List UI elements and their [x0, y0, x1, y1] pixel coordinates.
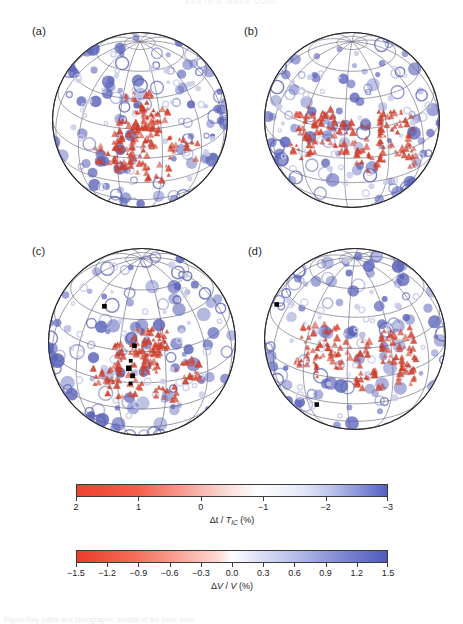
source-marker	[295, 144, 298, 147]
station-marker	[199, 288, 210, 299]
station-marker	[151, 81, 164, 94]
station-marker	[168, 261, 175, 268]
station-marker	[206, 298, 217, 309]
globe-d	[264, 248, 446, 430]
reference-marker	[132, 343, 137, 348]
source-marker	[165, 164, 168, 167]
station-marker	[421, 346, 425, 350]
station-marker	[362, 69, 368, 75]
station-marker	[176, 379, 183, 386]
panel-c: (c)	[30, 240, 230, 462]
station-marker	[287, 176, 297, 186]
source-marker	[156, 161, 162, 167]
station-marker	[190, 81, 195, 86]
station-marker	[337, 76, 341, 80]
station-marker	[162, 138, 168, 144]
station-marker	[410, 119, 416, 125]
station-marker	[87, 319, 97, 329]
station-marker	[346, 172, 353, 179]
station-marker	[290, 54, 300, 64]
colorbar-dt-tic-title: Δt / TIC (%)	[76, 515, 388, 528]
source-marker	[312, 150, 316, 154]
source-marker	[395, 130, 399, 134]
station-marker	[285, 111, 293, 119]
station-marker	[326, 276, 337, 287]
source-marker	[126, 152, 129, 155]
station-marker	[175, 38, 184, 47]
source-marker	[384, 135, 387, 138]
station-marker	[196, 68, 203, 75]
station-marker	[216, 303, 226, 313]
station-marker	[375, 396, 384, 405]
globe-c	[48, 248, 236, 436]
station-marker	[66, 92, 72, 98]
station-marker	[391, 394, 398, 401]
source-marker	[152, 338, 155, 341]
station-marker	[374, 301, 385, 312]
tick-label: 0	[198, 502, 203, 513]
source-marker	[316, 375, 319, 378]
station-marker	[83, 138, 95, 150]
station-marker	[427, 380, 441, 394]
station-marker	[52, 136, 60, 149]
station-marker	[306, 159, 318, 171]
station-marker	[394, 322, 401, 329]
station-marker	[82, 114, 86, 118]
station-marker	[419, 371, 424, 376]
globe-b	[264, 32, 440, 208]
source-marker	[394, 149, 397, 152]
station-marker	[160, 378, 166, 384]
station-marker	[172, 303, 185, 316]
station-marker	[183, 273, 188, 278]
station-marker	[77, 350, 83, 356]
station-marker	[413, 294, 419, 300]
station-marker	[144, 378, 151, 385]
station-marker	[359, 332, 366, 339]
station-marker	[90, 376, 95, 381]
station-marker	[166, 353, 176, 363]
station-marker	[285, 297, 291, 303]
station-marker	[345, 416, 359, 430]
source-marker	[148, 131, 154, 137]
station-marker	[182, 59, 193, 70]
station-marker	[334, 379, 348, 393]
source-marker	[321, 321, 327, 327]
station-marker	[323, 298, 333, 308]
panel-a: (a)	[30, 22, 230, 234]
station-marker	[88, 168, 98, 178]
station-marker	[388, 95, 394, 101]
source-marker	[297, 148, 300, 151]
tick-label: −0.3	[192, 568, 210, 579]
source-marker	[321, 353, 326, 358]
station-marker	[101, 294, 107, 300]
station-marker	[314, 187, 326, 199]
station-marker	[163, 101, 169, 107]
source-marker	[105, 390, 111, 396]
marker-layer-b	[264, 32, 440, 208]
source-marker	[327, 106, 334, 113]
station-marker	[264, 350, 277, 364]
source-marker	[384, 122, 390, 128]
globe-a	[52, 32, 228, 208]
station-marker	[76, 377, 83, 384]
station-marker	[307, 74, 313, 80]
station-marker	[163, 310, 167, 314]
station-marker	[87, 98, 92, 103]
source-marker	[311, 321, 318, 328]
station-marker	[327, 165, 333, 171]
source-marker	[411, 146, 416, 151]
station-marker	[336, 108, 343, 115]
reference-marker	[274, 302, 279, 307]
station-marker	[60, 376, 74, 390]
reference-marker	[129, 381, 133, 385]
station-marker	[271, 80, 284, 93]
source-marker	[353, 140, 357, 143]
station-marker	[207, 327, 219, 339]
station-marker	[81, 159, 90, 168]
station-marker	[221, 346, 232, 357]
tick-label: 0.9	[319, 568, 332, 579]
source-marker	[167, 173, 171, 177]
source-marker	[320, 139, 325, 144]
source-marker	[345, 349, 350, 354]
source-marker	[408, 331, 415, 338]
